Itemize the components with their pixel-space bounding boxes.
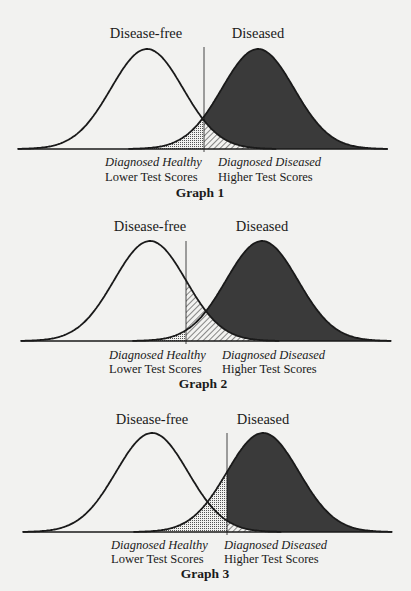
diagnosed-diseased-label: Diagnosed Diseased	[224, 539, 327, 552]
lower-test-scores-label: Lower Test Scores	[111, 553, 204, 566]
graph-3-plot	[22, 433, 392, 535]
diseased-true-positive-area	[227, 433, 392, 532]
disease-free-label: Disease-free	[114, 219, 186, 234]
diagnosed-diseased-label: Diagnosed Diseased	[222, 349, 325, 362]
lower-test-scores-label: Lower Test Scores	[109, 363, 202, 376]
graph-2-plot	[20, 241, 391, 344]
distribution-graphs	[0, 0, 411, 591]
higher-test-scores-label: Higher Test Scores	[218, 171, 313, 184]
graph-caption: Graph 1	[176, 186, 224, 200]
diagnosed-diseased-label: Diagnosed Diseased	[218, 156, 321, 169]
diseased-label: Diseased	[232, 26, 284, 41]
diseased-label: Diseased	[236, 219, 288, 234]
diseased-true-positive-area	[204, 49, 387, 149]
graph-1-plot	[17, 47, 388, 152]
diagnosed-healthy-label: Diagnosed Healthy	[111, 539, 208, 552]
figure: Disease-free Diseased Diagnosed Healthy …	[0, 0, 411, 591]
higher-test-scores-label: Higher Test Scores	[224, 553, 319, 566]
diagnosed-healthy-label: Diagnosed Healthy	[109, 349, 206, 362]
diagnosed-healthy-label: Diagnosed Healthy	[105, 156, 202, 169]
false-negative-dotted-area	[133, 473, 227, 532]
graph-caption: Graph 3	[181, 567, 229, 581]
disease-free-label: Disease-free	[110, 26, 182, 41]
disease-free-label: Disease-free	[116, 412, 188, 427]
diseased-label: Diseased	[237, 412, 289, 427]
graph-caption: Graph 2	[179, 377, 227, 391]
higher-test-scores-label: Higher Test Scores	[222, 363, 317, 376]
lower-test-scores-label: Lower Test Scores	[105, 171, 198, 184]
